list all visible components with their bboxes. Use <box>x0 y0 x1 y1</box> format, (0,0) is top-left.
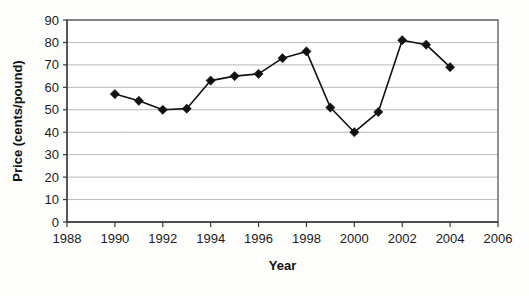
y-tick-label-50: 50 <box>45 102 59 117</box>
x-tick-label-1992: 1992 <box>148 231 177 246</box>
x-tick-label-2000: 2000 <box>340 231 369 246</box>
y-axis-title: Price (cents/pound) <box>10 60 25 181</box>
x-tick-label-1996: 1996 <box>244 231 273 246</box>
x-tick-label-1994: 1994 <box>196 231 225 246</box>
x-tick-label-1988: 1988 <box>53 231 82 246</box>
chart-container: 0102030405060708090198819901992199419961… <box>0 0 529 296</box>
line-chart: 0102030405060708090198819901992199419961… <box>0 0 529 296</box>
y-tick-label-60: 60 <box>45 80 59 95</box>
x-tick-label-1998: 1998 <box>292 231 321 246</box>
y-tick-label-90: 90 <box>45 13 59 28</box>
x-tick-label-2004: 2004 <box>436 231 465 246</box>
y-tick-label-30: 30 <box>45 147 59 162</box>
plot-background <box>67 20 498 222</box>
y-tick-label-20: 20 <box>45 170 59 185</box>
y-tick-label-10: 10 <box>45 192 59 207</box>
x-tick-label-2002: 2002 <box>388 231 417 246</box>
x-tick-label-2006: 2006 <box>484 231 513 246</box>
x-tick-label-1990: 1990 <box>100 231 129 246</box>
y-tick-label-80: 80 <box>45 35 59 50</box>
y-tick-label-0: 0 <box>52 215 59 230</box>
y-tick-label-40: 40 <box>45 125 59 140</box>
y-tick-label-70: 70 <box>45 57 59 72</box>
x-axis-title: Year <box>269 258 296 273</box>
